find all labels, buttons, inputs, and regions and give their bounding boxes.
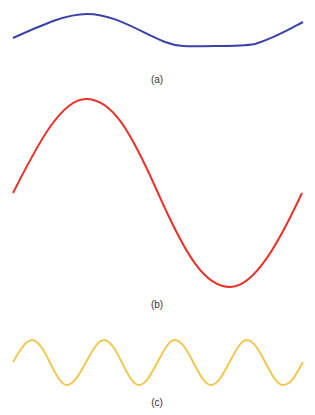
wave-c xyxy=(13,340,303,385)
label-c: (c) xyxy=(137,397,177,408)
label-b: (b) xyxy=(137,299,177,310)
label-a: (a) xyxy=(137,74,177,85)
wave-b xyxy=(13,99,302,287)
wave-a xyxy=(13,14,303,46)
waves-figure xyxy=(0,0,315,415)
